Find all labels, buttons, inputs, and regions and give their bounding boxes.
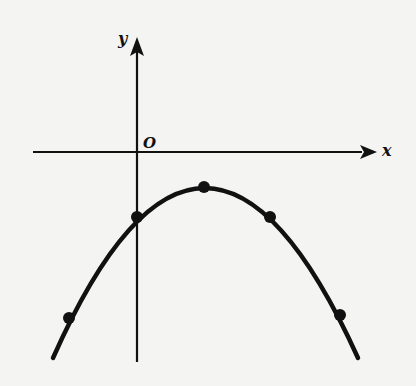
symmetric-point: [264, 211, 276, 223]
parabola-curve: [53, 188, 358, 358]
right-lower-point: [334, 309, 346, 321]
vertex-point: [198, 181, 210, 193]
y-axis-label: y: [117, 29, 129, 48]
y-intercept-point: [131, 211, 143, 223]
graph-canvas: y x O: [0, 0, 416, 386]
x-axis-arrow-icon: [360, 145, 377, 159]
left-lower-point: [63, 312, 75, 324]
origin-label: O: [143, 134, 156, 152]
x-axis-label: x: [381, 141, 392, 160]
graph-figure: y x O: [0, 0, 416, 386]
